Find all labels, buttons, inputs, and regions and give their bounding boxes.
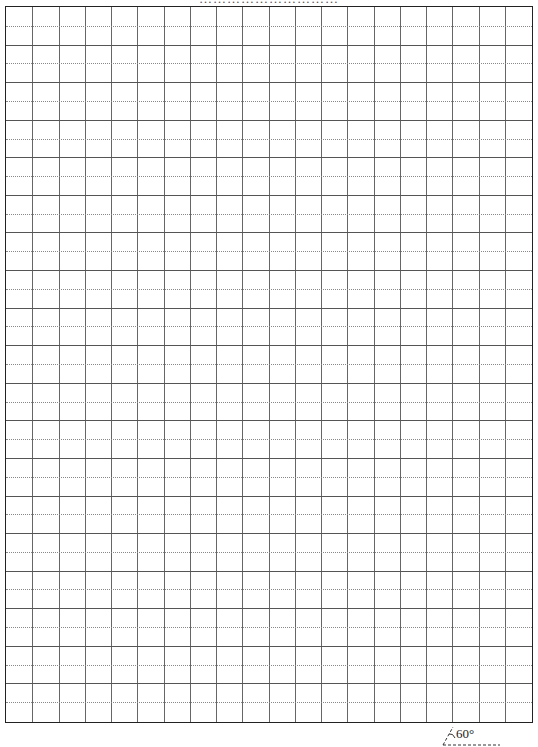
grid-row-line xyxy=(6,232,532,233)
grid-row-line xyxy=(6,345,532,346)
grid-row-midline xyxy=(6,26,532,27)
grid-row-midline xyxy=(6,326,532,327)
grid-row-midline xyxy=(6,439,532,440)
grid-row-line xyxy=(6,683,532,684)
grid-row-midline xyxy=(6,589,532,590)
grid-row-midline xyxy=(6,139,532,140)
grid-row-line xyxy=(6,458,532,459)
grid-row-line xyxy=(6,571,532,572)
grid-row-midline xyxy=(6,289,532,290)
grid-row-midline xyxy=(6,101,532,102)
header-caption: ………………………… xyxy=(0,0,538,3)
grid-row-midline xyxy=(6,251,532,252)
grid-row-midline xyxy=(6,627,532,628)
grid-row-midline xyxy=(6,702,532,703)
grid-row-midline xyxy=(6,665,532,666)
grid-row-midline xyxy=(6,477,532,478)
grid-row-line xyxy=(6,120,532,121)
grid-row-line xyxy=(6,608,532,609)
grid-row-midline xyxy=(6,63,532,64)
grid-row-line xyxy=(6,195,532,196)
grid-row-midline xyxy=(6,214,532,215)
grid-row-line xyxy=(6,646,532,647)
writing-grid xyxy=(5,6,533,723)
angle-label: 60° xyxy=(456,726,474,742)
angle-diagram-icon xyxy=(438,724,518,747)
grid-row-line xyxy=(6,383,532,384)
grid-row-midline xyxy=(6,176,532,177)
grid-row-line xyxy=(6,270,532,271)
angle-annotation: 60° xyxy=(438,724,518,747)
grid-row-midline xyxy=(6,514,532,515)
grid-row-midline xyxy=(6,552,532,553)
grid-row-line xyxy=(6,420,532,421)
grid-row-line xyxy=(6,45,532,46)
grid-row-line xyxy=(6,496,532,497)
grid-row-line xyxy=(6,82,532,83)
grid-row-line xyxy=(6,157,532,158)
grid-row-midline xyxy=(6,402,532,403)
grid-row-line xyxy=(6,308,532,309)
grid-row-line xyxy=(6,533,532,534)
grid-row-midline xyxy=(6,364,532,365)
